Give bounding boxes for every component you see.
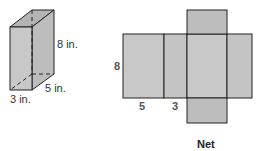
net-face-3x8-right	[227, 34, 252, 98]
net-width-label-3: 3	[172, 100, 178, 112]
net-face-5x8-center	[187, 34, 227, 98]
prism-width-label: 3 in.	[10, 93, 31, 105]
prism-height-label: 8 in.	[57, 38, 78, 50]
prism-depth-label: 5 in.	[45, 82, 66, 94]
net-height-label: 8	[114, 60, 120, 72]
rectangular-prism: 8 in. 5 in. 3 in.	[10, 10, 78, 105]
prism-front-face	[10, 27, 32, 90]
net-caption: Net	[197, 138, 215, 150]
net-face-bottom-flap	[187, 98, 227, 123]
net-face-5x8-left	[123, 34, 164, 98]
diagram-canvas: 8 in. 5 in. 3 in. 8 5 3 Net	[0, 0, 264, 151]
net-face-3x8-left	[164, 34, 187, 98]
net: 8 5 3 Net	[114, 10, 252, 150]
net-face-top-flap	[187, 10, 227, 34]
net-width-label-5: 5	[139, 100, 145, 112]
